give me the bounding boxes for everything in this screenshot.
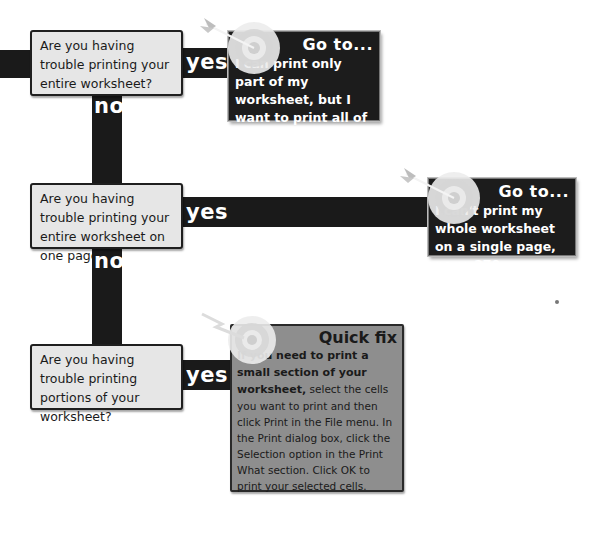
question-box-2[interactable]: Are you having trouble printing your ent…	[30, 183, 183, 249]
goto-title-1: Go to...	[235, 35, 373, 55]
question-text-1: Are you having trouble printing your ent…	[40, 38, 169, 91]
yes-label-3: yes	[186, 364, 228, 386]
goto-title-2: Go to...	[435, 182, 569, 202]
question-text-3: Are you having trouble printing portions…	[40, 352, 139, 424]
no-label-2: no	[94, 250, 124, 272]
question-box-3[interactable]: Are you having trouble printing portions…	[30, 344, 183, 410]
yes-label-1: yes	[186, 51, 228, 73]
quickfix-box[interactable]: Quick fix If you need to print a small s…	[230, 324, 404, 492]
quickfix-title: Quick fix	[237, 329, 397, 347]
yes-label-2: yes	[186, 201, 228, 223]
quickfix-text: select the cells you want to print and t…	[237, 383, 392, 492]
goto-text-1: I can print only part of my worksheet, b…	[235, 56, 367, 143]
goto-box-2[interactable]: Go to... I can't print my whole workshee…	[428, 178, 576, 256]
no-label-1: no	[94, 95, 124, 117]
goto-box-1[interactable]: Go to... I can print only part of my wor…	[228, 31, 380, 121]
goto-text-2: I can't print my whole worksheet on a si…	[435, 203, 556, 272]
question-box-1[interactable]: Are you having trouble printing your ent…	[30, 30, 183, 96]
stray-dot	[555, 300, 559, 304]
